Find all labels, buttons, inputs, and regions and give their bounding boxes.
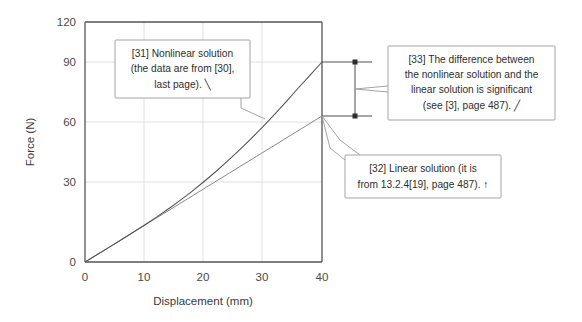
x-axis-title: Displacement (mm) <box>153 295 253 307</box>
annotation-32-line-1: [32] Linear solution (it is <box>369 163 477 174</box>
x-tick-10: 10 <box>138 271 151 283</box>
y-tick-30: 30 <box>63 176 76 188</box>
annotation-33-line-3: linear solution is significant <box>411 84 532 95</box>
figure-container: 120 90 60 30 0 0 10 20 30 40 Displacemen… <box>0 0 582 322</box>
annotation-32-box[interactable] <box>345 155 501 198</box>
annotation-32[interactable]: [32] Linear solution (it is from 13.2.4[… <box>345 155 501 198</box>
x-tick-30: 30 <box>256 271 269 283</box>
annotation-31[interactable]: [31] Nonlinear solution (the data are fr… <box>115 40 250 98</box>
y-tick-60: 60 <box>63 116 76 128</box>
y-tick-120: 120 <box>57 16 76 28</box>
annotation-32-line-2: from 13.2.4[19], page 487). ↑ <box>358 179 489 190</box>
x-tick-20: 20 <box>197 271 210 283</box>
annotation-31-line-1: [31] Nonlinear solution <box>132 48 233 59</box>
annotation-33-line-4: (see [3], page 487). ╱ <box>423 99 521 112</box>
y-tick-90: 90 <box>63 56 76 68</box>
annotation-33-line-1: [33] The difference between <box>409 54 535 65</box>
annotation-33-line-2: the nonlinear solution and the <box>405 69 539 80</box>
y-tick-0: 0 <box>70 256 76 268</box>
y-axis-title: Force (N) <box>24 118 36 167</box>
bracket-bottom-marker <box>353 114 358 119</box>
annotation-31-line-3: last page). ╲ <box>154 78 211 91</box>
bracket-top-marker <box>353 60 358 65</box>
x-tick-40: 40 <box>316 271 329 283</box>
x-tick-0: 0 <box>82 271 88 283</box>
annotation-33[interactable]: [33] The difference between the nonlinea… <box>388 46 555 120</box>
annotation-31-line-2: (the data are from [30], <box>131 63 235 74</box>
